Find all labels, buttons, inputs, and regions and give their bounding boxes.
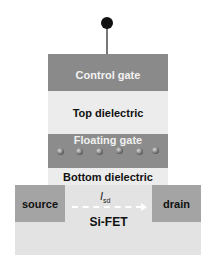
current-label: Isd xyxy=(100,190,110,204)
si-fet-label: Si-FET xyxy=(90,215,128,229)
charge-dot-icon xyxy=(57,148,64,155)
drain-region: drain xyxy=(152,185,201,222)
floating-gate-label: Floating gate xyxy=(74,134,142,146)
current-arrow-line xyxy=(72,206,142,208)
bottom-dielectric-layer: Bottom dielectric xyxy=(48,168,168,185)
charge-dot-icon xyxy=(116,147,123,154)
terminal-wire xyxy=(106,26,108,54)
source-label: source xyxy=(22,198,58,210)
floating-gate-layer: Floating gate xyxy=(48,134,168,168)
si-fet-label-box: Si-FET xyxy=(65,210,152,234)
control-gate-label: Control gate xyxy=(76,69,141,81)
charge-dot-icon xyxy=(136,148,143,155)
bottom-dielectric-label: Bottom dielectric xyxy=(63,171,153,183)
charge-dot-icon xyxy=(96,148,103,155)
top-dielectric-label: Top dielectric xyxy=(73,107,144,119)
control-gate-layer: Control gate xyxy=(48,54,168,91)
terminal-contact-icon xyxy=(101,17,113,29)
charge-dot-icon xyxy=(76,148,83,155)
source-region: source xyxy=(15,185,65,222)
drain-label: drain xyxy=(163,198,190,210)
top-dielectric-layer: Top dielectric xyxy=(48,91,168,134)
current-subscript: sd xyxy=(103,197,110,204)
charge-dot-icon xyxy=(152,147,159,154)
